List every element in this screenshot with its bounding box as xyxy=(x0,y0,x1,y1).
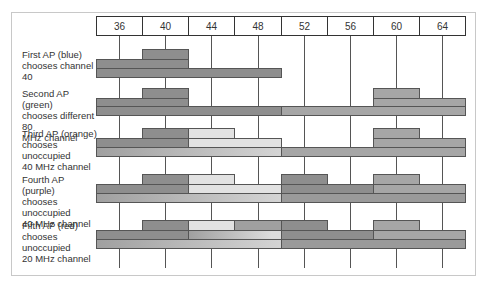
channel-header-56: 56 xyxy=(327,16,374,36)
channel-header-64: 64 xyxy=(419,16,466,36)
channel-header-52: 52 xyxy=(281,16,328,36)
bar-purple-green-80mhz xyxy=(281,239,466,249)
bar-blue-orange-80mhz xyxy=(96,147,282,157)
channel-header-44: 44 xyxy=(188,16,235,36)
bar-blue-orange-80mhz xyxy=(96,193,282,203)
bar-green-80mhz xyxy=(281,106,466,116)
bar-purple-green-80mhz xyxy=(281,193,466,203)
bar-green-80mhz xyxy=(281,147,466,157)
row-label-fifth-ap: Fifth AP (red) chooses unoccupied 20 MHz… xyxy=(22,220,98,264)
bar-blue-orange-red-80mhz xyxy=(96,239,282,249)
channel-header-48: 48 xyxy=(234,16,282,36)
channel-header-60: 60 xyxy=(373,16,420,36)
bar-blue-80mhz xyxy=(96,106,282,116)
channel-header-40: 40 xyxy=(142,16,189,36)
bar-blue-80mhz xyxy=(96,68,282,78)
channel-header-36: 36 xyxy=(96,16,143,36)
row-label-third-ap: Third AP (orange) chooses unoccupied 40 … xyxy=(22,128,98,172)
row-label-first-ap: First AP (blue) chooses channel 40 xyxy=(22,49,98,82)
